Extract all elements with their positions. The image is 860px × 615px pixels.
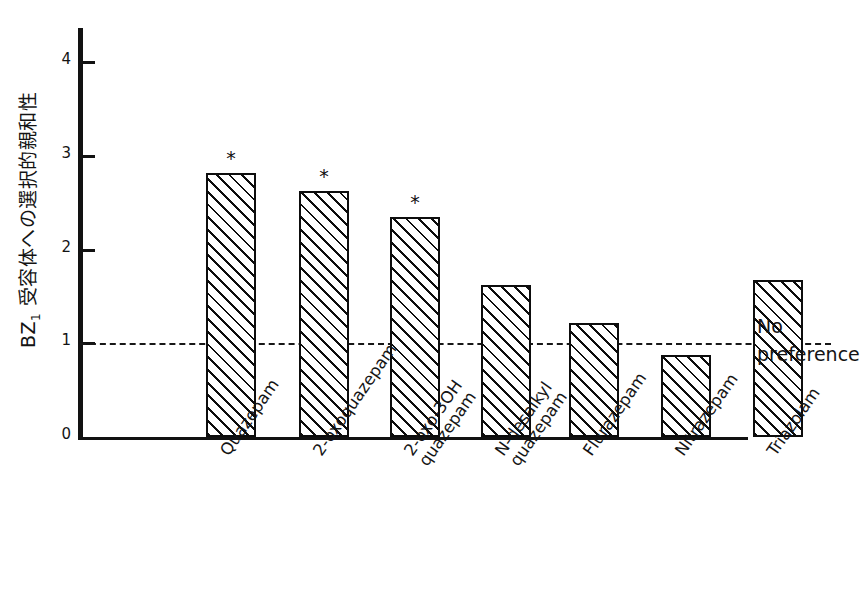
y-tick-label: 1: [61, 333, 71, 348]
plot-area: 01234 *** Quazepam2-oxoquazepam2-oxo-3OH…: [78, 28, 748, 438]
y-tick-label: 3: [61, 146, 71, 161]
y-axis-title-main: BZ: [17, 321, 39, 348]
y-tick-label: 2: [61, 240, 71, 255]
y-tick-label: 4: [61, 52, 71, 67]
y-tick-label: 0: [61, 427, 71, 442]
y-tick-mark: [83, 61, 95, 64]
significance-marker-3: *: [410, 193, 420, 212]
y-axis-title-container: BZ1 受容体への選択的親和性: [0, 0, 56, 440]
annotation-line-1: No: [757, 313, 860, 341]
significance-marker-1: *: [226, 149, 236, 168]
y-tick-mark: [83, 155, 95, 158]
bar-1[interactable]: [206, 173, 256, 437]
significance-marker-2: *: [319, 167, 329, 186]
annotation-line-2: preference: [757, 341, 860, 369]
no-preference-reference-line: [80, 343, 831, 345]
y-tick-mark: [83, 249, 95, 252]
no-preference-annotation: No preference: [757, 313, 860, 368]
y-axis-title-subscript: 1: [29, 313, 43, 321]
y-axis-line: [78, 28, 83, 438]
y-axis-title: BZ1 受容体への選択的親和性: [13, 92, 43, 348]
y-axis-title-rest: 受容体への選択的親和性: [17, 92, 39, 313]
